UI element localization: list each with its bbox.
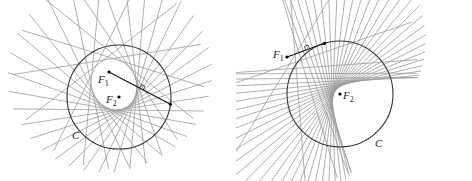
tangent-line [100,0,162,154]
ellipse-construction-figure: F1 F2 C [0,0,236,181]
focus-f2-point [117,95,120,98]
circle-point [323,42,326,45]
tangent-line [84,15,194,170]
focus-f1-point [285,55,288,58]
focus-f1-label: F1 [273,49,284,63]
focus-f2-point [338,92,341,95]
tangent-line [99,1,181,172]
focus-f2-label: F2 [343,90,354,104]
ellipse-envelope-diagram [0,0,236,181]
tangent-line [313,0,365,181]
hyperbola-envelope-diagram [236,0,472,181]
focus-f2-label: F2 [106,94,117,108]
tangent-line [114,0,165,172]
circle-c-label: C [375,138,382,149]
tangent-lines-group [236,0,426,181]
tangent-line [54,0,139,151]
circle-c-label: C [72,130,79,141]
tangent-lines-group [8,0,212,172]
tangent-line [26,4,177,120]
focus-f1-label: F1 [98,74,109,88]
circle-point [169,103,172,106]
tangent-line [236,16,423,181]
tangent-line [29,14,147,163]
hyperbola-construction-figure: F1 F2 C [236,0,472,181]
